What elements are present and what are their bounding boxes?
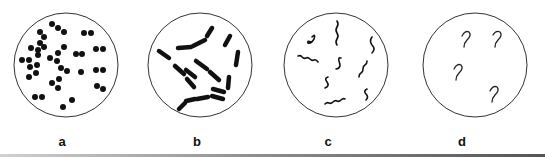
bacilli-cells [159, 28, 238, 109]
panel-label-b: b [187, 134, 207, 149]
panel-d-vibrios [423, 13, 527, 117]
panel-label-c: c [318, 134, 338, 149]
spirilla-cells [298, 21, 374, 104]
bottom-rule [0, 154, 545, 157]
panel-label-d: d [452, 134, 472, 149]
panel-a-cocci [14, 13, 118, 117]
panel-label-a: a [52, 134, 72, 149]
vibrio-cells [454, 31, 501, 102]
field-circle-d [423, 13, 527, 117]
cocci-cells [19, 21, 106, 110]
panel-c-spirilla [284, 13, 388, 117]
panel-b-bacilli [148, 13, 252, 117]
